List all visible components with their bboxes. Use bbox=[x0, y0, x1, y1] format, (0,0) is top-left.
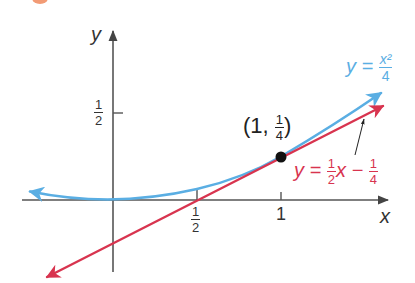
frac-numerator: 1 bbox=[369, 157, 378, 172]
chart-plot-area bbox=[0, 0, 415, 283]
point-label-close: ) bbox=[284, 113, 291, 138]
x-tick-label-one: 1 bbox=[276, 205, 286, 223]
frac-denominator: 2 bbox=[95, 113, 102, 127]
x-tick-label-half: 1 2 bbox=[191, 205, 200, 234]
frac-numerator: 1 bbox=[191, 205, 200, 220]
frac-numerator: x² bbox=[379, 52, 393, 68]
tangency-point bbox=[276, 152, 287, 163]
tangent-equation-label: y = 1 2 x − 1 4 bbox=[294, 157, 378, 186]
frac-denominator: 4 bbox=[382, 68, 390, 83]
frac-denominator: 4 bbox=[370, 172, 377, 186]
y-axis-label: y bbox=[91, 24, 101, 44]
x-axis-label: x bbox=[380, 206, 390, 226]
tangent-leader-line bbox=[355, 119, 364, 155]
frac-denominator: 4 bbox=[276, 128, 283, 142]
frac-numerator: 1 bbox=[327, 157, 336, 172]
point-label: (1, 1 4 ) bbox=[243, 113, 291, 142]
parabola-equation-label: y = x² 4 bbox=[346, 52, 392, 83]
tangent-eq-lhs: y = bbox=[294, 159, 321, 181]
tangent-line bbox=[47, 106, 383, 277]
frac-numerator: 1 bbox=[94, 98, 103, 113]
frac-denominator: 2 bbox=[328, 172, 335, 186]
parabola-eq-lhs: y = bbox=[346, 55, 373, 77]
y-tick-label-half: 1 2 bbox=[94, 98, 103, 127]
point-label-open: (1, bbox=[243, 113, 269, 138]
frac-numerator: 1 bbox=[275, 113, 284, 128]
frac-denominator: 2 bbox=[192, 220, 199, 234]
tangent-eq-var: x − bbox=[336, 159, 363, 181]
